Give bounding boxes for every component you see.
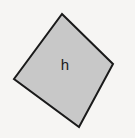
figure-canvas: h <box>0 0 135 138</box>
shape-label-h: h <box>61 56 69 73</box>
figure-svg: h <box>0 0 135 138</box>
